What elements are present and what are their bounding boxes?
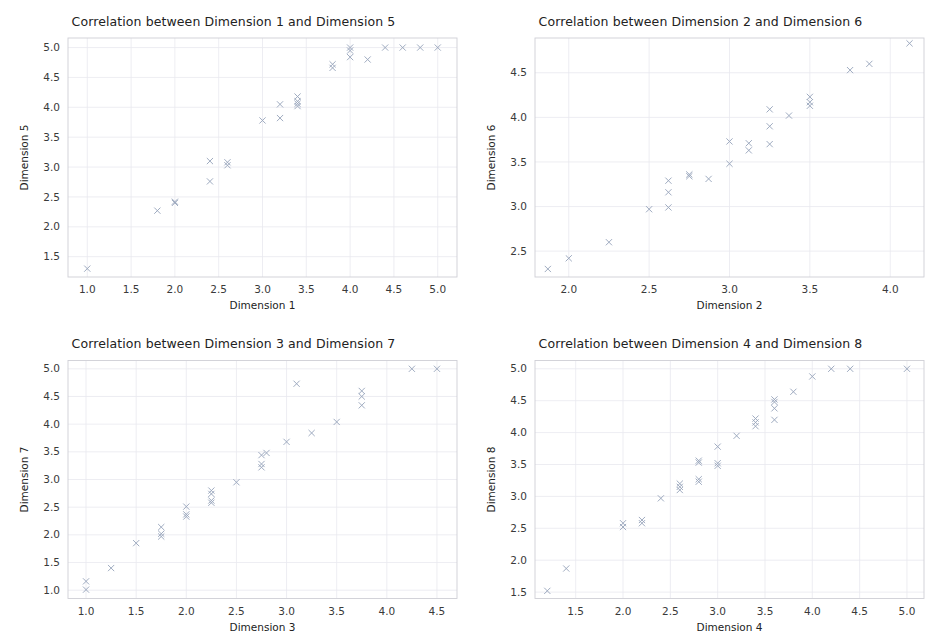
x-tick-label: 3.5 xyxy=(298,283,315,295)
y-tick-label: 1.5 xyxy=(43,556,60,568)
x-tick-label: 4.0 xyxy=(378,605,395,617)
data-point-marker xyxy=(208,491,214,497)
y-tick-label: 4.5 xyxy=(510,66,527,78)
panel-dim3-dim7: Correlation between Dimension 3 and Dime… xyxy=(0,322,467,643)
panel-dim4-dim8: Correlation between Dimension 4 and Dime… xyxy=(467,322,934,643)
x-tick-label: 3.0 xyxy=(278,605,295,617)
y-tick-label: 5.0 xyxy=(43,362,60,374)
y-tick-label: 2.0 xyxy=(510,554,527,566)
data-point-marker xyxy=(365,56,371,62)
y-tick-label: 2.0 xyxy=(43,528,60,540)
data-point-marker xyxy=(639,517,645,523)
data-point-marker xyxy=(639,520,645,526)
x-axis-label: Dimension 3 xyxy=(230,621,296,633)
data-point-marker xyxy=(563,565,569,571)
x-tick-label: 2.0 xyxy=(167,283,184,295)
data-point-marker xyxy=(767,123,773,129)
y-tick-label: 3.5 xyxy=(43,131,60,143)
x-tick-label: 2.5 xyxy=(210,283,227,295)
x-tick-label: 4.5 xyxy=(851,605,868,617)
data-point-marker xyxy=(207,178,213,184)
x-tick-label: 3.0 xyxy=(721,283,738,295)
data-point-marker xyxy=(329,61,335,67)
x-tick-label: 4.5 xyxy=(429,605,446,617)
x-axis-label: Dimension 4 xyxy=(697,621,763,633)
y-tick-label: 3.0 xyxy=(43,473,60,485)
x-tick-label: 5.0 xyxy=(429,283,446,295)
x-tick-label: 4.0 xyxy=(882,283,899,295)
data-point-marker xyxy=(767,106,773,112)
y-tick-label: 4.5 xyxy=(510,394,527,406)
y-tick-label: 2.5 xyxy=(43,191,60,203)
axis-tick-labels: 1.01.52.02.53.03.54.04.51.01.52.02.53.03… xyxy=(43,362,445,616)
data-point-marker xyxy=(665,189,671,195)
y-tick-label: 1.5 xyxy=(510,586,527,598)
x-tick-label: 1.5 xyxy=(123,283,140,295)
data-point-marker xyxy=(544,588,550,594)
data-point-marker xyxy=(293,381,299,387)
x-tick-label: 1.0 xyxy=(79,283,96,295)
y-tick-label: 3.0 xyxy=(510,490,527,502)
x-tick-label: 2.0 xyxy=(615,605,632,617)
grid-lines xyxy=(68,361,457,599)
x-axis-label: Dimension 1 xyxy=(230,299,296,311)
y-tick-label: 4.0 xyxy=(510,111,527,123)
data-point-marker xyxy=(359,402,365,408)
grid-lines xyxy=(68,38,457,277)
grid-lines xyxy=(535,38,924,277)
plot-canvas-dim2-dim6: 2.02.53.03.54.02.53.03.54.04.5Dimension … xyxy=(467,0,934,322)
x-tick-label: 2.5 xyxy=(641,283,658,295)
y-axis-label: Dimension 6 xyxy=(485,124,497,190)
data-point-marker xyxy=(258,461,264,467)
data-point-marker xyxy=(277,115,283,121)
data-point-marker xyxy=(277,101,283,107)
data-point-marker xyxy=(771,405,777,411)
y-tick-label: 3.5 xyxy=(510,156,527,168)
data-point-marker xyxy=(906,40,912,46)
data-point-marker xyxy=(847,67,853,73)
y-tick-label: 4.0 xyxy=(43,418,60,430)
y-tick-label: 2.5 xyxy=(43,501,60,513)
x-tick-label: 2.0 xyxy=(178,605,195,617)
data-point-marker xyxy=(329,65,335,71)
data-point-marker xyxy=(258,464,264,470)
y-tick-label: 3.5 xyxy=(43,445,60,457)
data-point-marker xyxy=(866,61,872,67)
panel-dim1-dim5: Correlation between Dimension 1 and Dime… xyxy=(0,0,467,322)
x-tick-label: 4.5 xyxy=(386,283,403,295)
data-point-marker xyxy=(207,158,213,164)
x-tick-label: 4.0 xyxy=(342,283,359,295)
y-axis-label: Dimension 8 xyxy=(485,447,497,513)
data-point-marker xyxy=(665,178,671,184)
x-axis-label: Dimension 2 xyxy=(697,299,763,311)
x-tick-label: 1.5 xyxy=(567,605,584,617)
x-tick-label: 2.5 xyxy=(662,605,679,617)
x-tick-label: 2.5 xyxy=(228,605,245,617)
y-tick-label: 3.5 xyxy=(510,458,527,470)
data-point-marker xyxy=(746,147,752,153)
y-tick-label: 1.0 xyxy=(43,584,60,596)
y-tick-label: 3.0 xyxy=(43,161,60,173)
data-point-marker xyxy=(771,417,777,423)
y-tick-label: 4.5 xyxy=(43,390,60,402)
y-tick-label: 2.5 xyxy=(510,522,527,534)
x-tick-label: 3.0 xyxy=(709,605,726,617)
y-tick-label: 2.5 xyxy=(510,245,527,257)
y-tick-label: 1.5 xyxy=(43,250,60,262)
data-points xyxy=(544,366,910,594)
x-tick-label: 1.0 xyxy=(78,605,95,617)
data-point-marker xyxy=(677,487,683,493)
data-point-marker xyxy=(706,176,712,182)
y-tick-label: 4.0 xyxy=(510,426,527,438)
y-tick-label: 4.0 xyxy=(43,101,60,113)
data-point-marker xyxy=(154,208,160,214)
panel-dim2-dim6: Correlation between Dimension 2 and Dime… xyxy=(467,0,934,322)
x-tick-label: 1.5 xyxy=(128,605,145,617)
y-axis-label: Dimension 7 xyxy=(18,447,30,513)
x-tick-label: 3.0 xyxy=(254,283,271,295)
data-point-marker xyxy=(158,524,164,530)
data-point-marker xyxy=(733,433,739,439)
plot-border xyxy=(535,361,924,599)
y-tick-label: 2.0 xyxy=(43,220,60,232)
x-tick-label: 3.5 xyxy=(328,605,345,617)
